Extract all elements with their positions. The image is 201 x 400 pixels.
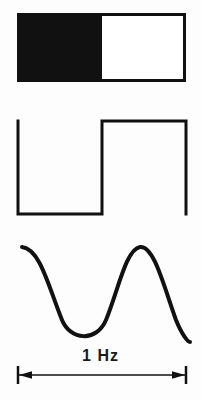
period-dimension-panel: 1 Hz: [0, 347, 201, 400]
sine-wave-path: [22, 247, 190, 342]
square-wave-svg: [0, 100, 201, 225]
square-wave-path: [18, 121, 186, 214]
duty-cycle-block-panel: [0, 0, 201, 100]
sine-wave-panel: [0, 225, 201, 350]
square-wave-panel: [0, 100, 201, 225]
dimension-left-arrowhead: [19, 371, 32, 379]
frequency-label: 1 Hz: [0, 347, 201, 365]
figure-root: 1 Hz: [0, 0, 201, 400]
duty-cycle-block-on-half: [17, 13, 102, 82]
sine-wave-svg: [0, 225, 201, 350]
dimension-right-arrowhead: [172, 371, 185, 379]
